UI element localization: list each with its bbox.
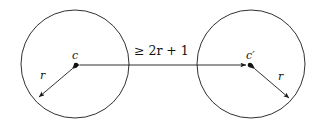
left-center-dot [74, 63, 79, 68]
geometry-figure: c c′ r r ≥ 2r + 1 [0, 0, 323, 127]
distance-label: ≥ 2r + 1 [132, 45, 191, 58]
right-center-dot [248, 63, 253, 68]
right-center-label: c′ [246, 50, 255, 61]
left-radius-label: r [40, 70, 45, 81]
right-radius-label: r [278, 71, 283, 82]
figure-canvas [0, 0, 323, 127]
right-radius-arrow [255, 69, 289, 98]
left-center-label: c [72, 50, 78, 61]
